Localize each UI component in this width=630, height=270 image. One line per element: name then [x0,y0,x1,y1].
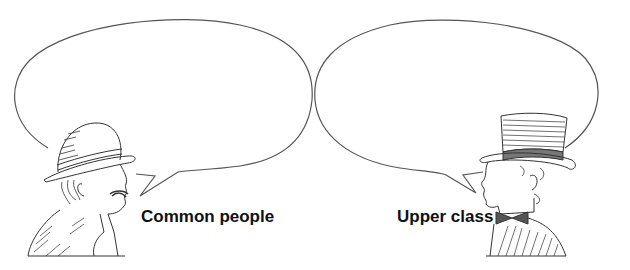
illustration [0,0,630,270]
bow-tie-icon [496,212,528,224]
upper-class-man-figure [480,113,575,256]
speech-bubble-right [315,20,598,193]
label-common-people: Common people [141,207,274,227]
label-upper-class: Upper class [397,207,493,227]
bowler-hat-icon [58,123,121,172]
common-man-figure [28,123,135,256]
